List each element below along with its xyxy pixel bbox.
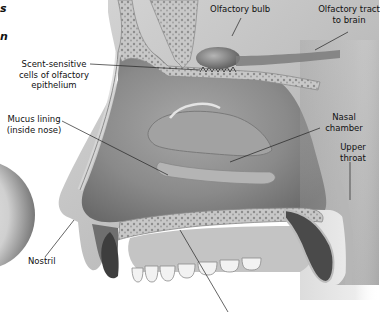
heading-fragment-2: n bbox=[0, 30, 8, 43]
label-nostril: Nostril bbox=[28, 256, 56, 267]
label-scent-cells-line3: epithelium bbox=[18, 80, 90, 91]
label-scent-cells-line2: cells of olfactory bbox=[18, 70, 90, 81]
label-olfactory-bulb: Olfactory bulb bbox=[210, 4, 270, 15]
label-mucus-lining-line2: (inside nose) bbox=[5, 125, 63, 136]
label-nasal-chamber: Nasal chamber bbox=[322, 112, 366, 133]
inset-circle-edge bbox=[0, 160, 35, 270]
label-olfactory-tract-line2: to brain bbox=[318, 15, 380, 26]
label-scent-cells-line1: Scent-sensitive bbox=[18, 59, 90, 70]
label-upper-throat-line2: throat bbox=[336, 153, 370, 164]
label-scent-cells: Scent-sensitive cells of olfactory epith… bbox=[18, 59, 90, 91]
olfactory-bulb bbox=[196, 47, 240, 69]
leader-nostril bbox=[45, 220, 74, 257]
label-nasal-chamber-line2: chamber bbox=[322, 123, 366, 134]
label-mucus-lining: Mucus lining (inside nose) bbox=[5, 114, 63, 135]
label-olfactory-tract: Olfactory tract to brain bbox=[318, 4, 380, 25]
label-olfactory-tract-line1: Olfactory tract bbox=[318, 4, 380, 15]
label-upper-throat-line1: Upper bbox=[336, 142, 370, 153]
label-upper-throat: Upper throat bbox=[336, 142, 370, 163]
label-mucus-lining-line1: Mucus lining bbox=[5, 114, 63, 125]
label-nasal-chamber-line1: Nasal bbox=[322, 112, 366, 123]
heading-fragment-1: s bbox=[0, 2, 7, 15]
